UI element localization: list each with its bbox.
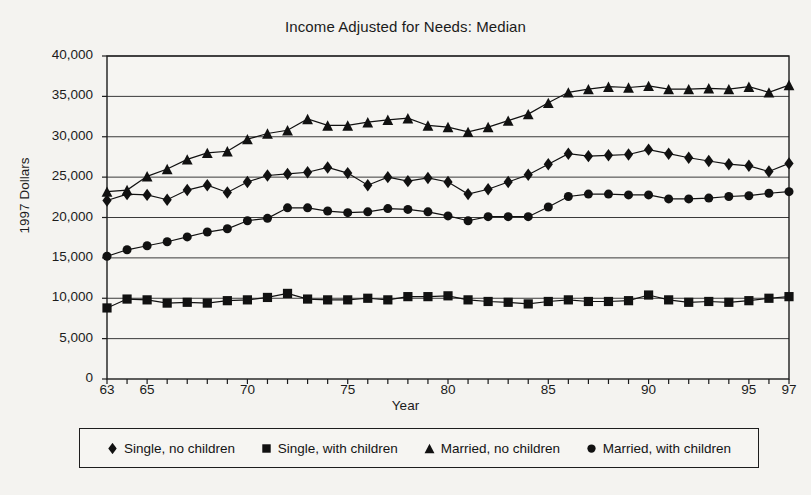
data-point-square	[744, 296, 753, 305]
data-point-square	[423, 292, 432, 301]
data-point-circle	[383, 204, 392, 213]
legend-item-label: Single, no children	[124, 441, 235, 456]
data-point-square	[303, 294, 312, 303]
data-point-circle	[163, 237, 172, 246]
data-point-square	[262, 444, 270, 452]
data-point-square	[684, 298, 693, 307]
data-point-circle	[504, 212, 513, 221]
x-tick-label: 65	[140, 382, 155, 397]
chart-legend: Single, no childrenSingle, with children…	[79, 428, 759, 468]
data-point-circle	[223, 224, 232, 233]
data-point-circle	[524, 212, 533, 221]
data-point-circle	[343, 208, 352, 217]
data-point-square	[263, 293, 272, 302]
x-tick-label: 75	[340, 382, 355, 397]
data-point-circle	[283, 203, 292, 212]
data-point-circle	[604, 190, 613, 199]
data-point-circle	[464, 216, 473, 225]
data-point-square	[403, 292, 412, 301]
data-point-circle	[143, 241, 152, 250]
legend-item-label: Married, no children	[441, 441, 560, 456]
data-point-circle	[544, 203, 553, 212]
plot-area	[0, 0, 811, 495]
data-point-square	[784, 292, 793, 301]
data-point-circle	[587, 444, 595, 452]
data-point-circle	[564, 192, 573, 201]
data-point-square	[243, 295, 252, 304]
data-point-square	[724, 298, 733, 307]
legend-item[interactable]: Married, with children	[586, 441, 731, 456]
data-point-circle	[323, 207, 332, 216]
data-point-circle	[263, 214, 272, 223]
data-point-circle	[444, 211, 453, 220]
data-point-square	[283, 289, 292, 298]
data-point-square	[644, 290, 653, 299]
data-point-square	[383, 295, 392, 304]
data-point-circle	[103, 252, 112, 261]
x-tick-label: 85	[541, 382, 556, 397]
data-point-square	[363, 294, 372, 303]
x-tick-label: 95	[741, 382, 756, 397]
data-point-circle	[363, 207, 372, 216]
data-point-square	[343, 295, 352, 304]
data-point-circle	[123, 245, 132, 254]
data-point-circle	[484, 212, 493, 221]
data-point-square	[704, 297, 713, 306]
data-point-circle	[584, 190, 593, 199]
data-point-circle	[183, 232, 192, 241]
data-point-square	[463, 295, 472, 304]
data-point-circle	[624, 190, 633, 199]
data-point-circle	[724, 192, 733, 201]
x-tick-label: 63	[99, 382, 114, 397]
data-point-square	[764, 294, 773, 303]
data-point-square	[604, 297, 613, 306]
data-point-square	[524, 299, 533, 308]
legend-item-label: Single, with children	[278, 441, 398, 456]
data-point-circle	[764, 189, 773, 198]
data-point-square	[564, 295, 573, 304]
x-tick-label: 90	[641, 382, 656, 397]
square-marker-icon	[261, 443, 272, 454]
chart-figure: Income Adjusted for Needs: Median 1997 D…	[0, 0, 811, 495]
data-point-square	[484, 297, 493, 306]
x-tick-label: 80	[440, 382, 455, 397]
x-tick-label: 97	[781, 382, 796, 397]
data-point-circle	[303, 203, 312, 212]
data-point-triangle	[424, 443, 434, 453]
data-point-circle	[423, 207, 432, 216]
data-point-diamond	[108, 443, 116, 454]
legend-item[interactable]: Single, no children	[107, 441, 235, 456]
data-point-square	[122, 294, 131, 303]
data-point-square	[203, 298, 212, 307]
data-point-square	[223, 296, 232, 305]
data-point-square	[323, 295, 332, 304]
x-tick-label: 70	[240, 382, 255, 397]
circle-marker-icon	[586, 443, 597, 454]
data-point-square	[163, 298, 172, 307]
data-point-square	[624, 296, 633, 305]
data-point-circle	[785, 187, 794, 196]
data-point-square	[183, 298, 192, 307]
data-point-circle	[644, 190, 653, 199]
data-point-square	[584, 297, 593, 306]
data-point-circle	[243, 216, 252, 225]
legend-item[interactable]: Single, with children	[261, 441, 398, 456]
legend-item-label: Married, with children	[603, 441, 731, 456]
data-point-circle	[704, 194, 713, 203]
data-point-circle	[684, 194, 693, 203]
data-point-square	[102, 303, 111, 312]
x-axis-label: Year	[0, 398, 811, 413]
data-point-circle	[744, 191, 753, 200]
data-point-square	[443, 291, 452, 300]
legend-item[interactable]: Married, no children	[424, 441, 560, 456]
triangle-marker-icon	[424, 443, 435, 454]
data-point-circle	[403, 205, 412, 214]
data-point-square	[664, 295, 673, 304]
data-point-square	[504, 298, 513, 307]
diamond-marker-icon	[107, 443, 118, 454]
data-point-square	[544, 297, 553, 306]
data-point-square	[143, 295, 152, 304]
data-point-circle	[664, 194, 673, 203]
data-point-circle	[203, 228, 212, 237]
